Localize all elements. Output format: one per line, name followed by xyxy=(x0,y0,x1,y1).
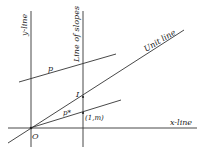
line-p xyxy=(19,54,116,82)
point-1m-label: (1,m) xyxy=(85,114,104,122)
p-star-label: p* xyxy=(63,109,71,117)
origin-label: O xyxy=(32,132,39,141)
x-line-label: x-line xyxy=(170,118,192,127)
p-label: p xyxy=(48,64,53,73)
line-p-star xyxy=(30,100,121,128)
point-origin xyxy=(30,127,33,130)
point-I xyxy=(82,96,84,98)
diagram: y-line Line of slopes Unit line x-line p… xyxy=(0,0,207,157)
y-line-label: y-line xyxy=(20,14,29,37)
line-of-slopes-label: Line of slopes xyxy=(72,6,81,63)
unit-line-label: Unit line xyxy=(142,28,177,54)
point-1m xyxy=(82,112,84,114)
